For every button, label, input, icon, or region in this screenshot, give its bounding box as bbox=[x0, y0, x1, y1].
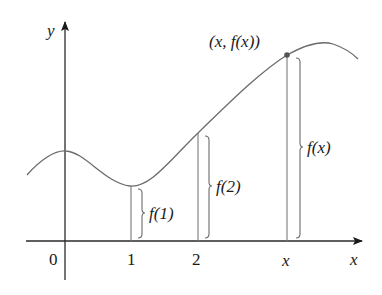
brace-label-f1: f(1) bbox=[149, 204, 174, 223]
point-x-fx bbox=[284, 52, 290, 58]
origin-label: 0 bbox=[49, 250, 58, 269]
brace-fx bbox=[296, 58, 303, 238]
brace-label-fx: f(x) bbox=[307, 138, 331, 157]
brace-label-f2: f(2) bbox=[216, 177, 241, 196]
point-label: (x, f(x)) bbox=[209, 32, 260, 51]
tick-label-1: 1 bbox=[127, 250, 136, 269]
x-axis-label: x bbox=[349, 250, 358, 269]
tick-label-2: 2 bbox=[192, 250, 201, 269]
tick-label-x: x bbox=[281, 251, 290, 270]
brace-f2 bbox=[205, 136, 212, 238]
brace-f1 bbox=[138, 189, 145, 238]
function-graph-diagram: y x 0 1 2 x (x, f(x)) f(1) f(2) f(x) bbox=[0, 0, 382, 295]
function-curve bbox=[27, 43, 358, 186]
y-axis-label: y bbox=[45, 21, 55, 40]
